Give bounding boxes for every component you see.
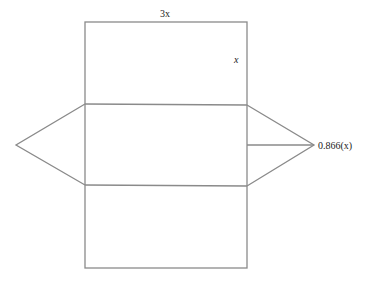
prism-net-diagram: 3x x 0.866(x) bbox=[0, 0, 367, 285]
net-outline bbox=[85, 22, 247, 268]
left-triangle-face bbox=[16, 104, 85, 185]
top-width-label: 3x bbox=[160, 8, 170, 19]
fold-line-top bbox=[85, 104, 247, 105]
side-height-label: x bbox=[233, 54, 239, 65]
triangle-height-label: 0.866(x) bbox=[318, 140, 352, 152]
fold-line-bottom bbox=[85, 185, 247, 186]
